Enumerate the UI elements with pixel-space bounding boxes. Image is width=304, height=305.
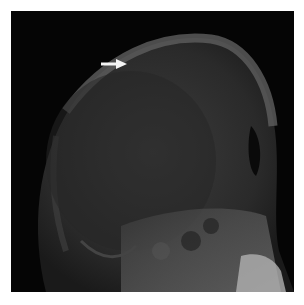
skull-radiograph [11, 11, 294, 292]
radiograph-frame [11, 11, 294, 292]
arrow-annotation-icon [101, 59, 127, 69]
